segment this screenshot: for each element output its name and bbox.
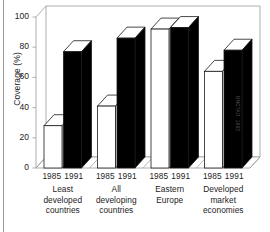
x-group-name-line3: countries — [79, 205, 153, 215]
x-axis-group-labels: 19851991 Least developed countries 19851… — [0, 171, 270, 232]
x-group-name-line2: market — [186, 195, 260, 205]
y-tick-40: 40 — [3, 103, 29, 112]
x-group-developed-market-economies: 19851991 Developed market economies — [186, 171, 260, 216]
x-group-name-line3: economies — [186, 205, 260, 215]
y-tick-20: 20 — [3, 133, 29, 142]
year-label-1985: 1985 — [96, 171, 115, 181]
bar-1991-0 — [64, 41, 92, 168]
year-label-1991: 1991 — [225, 171, 244, 181]
y-tick-100: 100 — [3, 12, 29, 21]
y-tick-80: 80 — [3, 42, 29, 51]
x-group-years: 19851991 — [186, 171, 260, 181]
figure-container: Coverage (%) 100 80 60 40 20 0 19851991 … — [0, 0, 270, 232]
year-label-1985: 1985 — [149, 171, 168, 181]
y-tick-60: 60 — [3, 72, 29, 81]
bar-1991-2 — [171, 17, 199, 168]
source-credit: UNCTAD, 1993 — [235, 96, 240, 160]
year-label-1985: 1985 — [203, 171, 222, 181]
bar-1991-1 — [117, 27, 145, 168]
x-group-name-line1: Developed — [186, 184, 260, 194]
year-label-1985: 1985 — [42, 171, 61, 181]
x-group-name: Developed market economies — [186, 184, 260, 215]
